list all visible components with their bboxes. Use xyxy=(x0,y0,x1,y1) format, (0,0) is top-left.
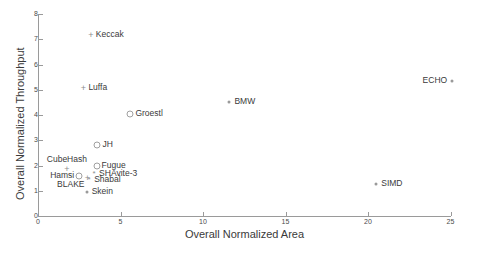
y-tick-1 xyxy=(39,191,43,192)
point-label-groestl: Groestl xyxy=(135,109,162,118)
scatter-plot: 0510152025 012345678 +Keccak+LuffaECHOBM… xyxy=(0,0,479,253)
x-tick-15 xyxy=(286,212,287,216)
y-tick-label-2: 2 xyxy=(29,162,38,170)
point-label-simd: SIMD xyxy=(381,179,402,188)
y-tick-7 xyxy=(39,39,43,40)
y-tick-label-1: 1 xyxy=(29,187,38,195)
point-label-shabal: Shabal xyxy=(94,175,120,184)
circle-marker-icon xyxy=(94,142,101,149)
y-tick-2 xyxy=(39,166,43,167)
y-tick-label-6: 6 xyxy=(29,61,38,69)
point-label-blake: BLAKE xyxy=(57,180,84,189)
point-label-jh: JH xyxy=(102,140,112,149)
x-tick-label-25: 25 xyxy=(447,218,455,226)
chart-screenshot: 0510152025 012345678 +Keccak+LuffaECHOBM… xyxy=(0,0,479,253)
x-tick-label-15: 15 xyxy=(282,218,290,226)
x-tick-label-20: 20 xyxy=(364,218,372,226)
y-tick-8 xyxy=(39,14,43,15)
point-label-skein: Skein xyxy=(92,187,113,196)
x-tick-label-5: 5 xyxy=(119,218,123,226)
point-label-keccak: Keccak xyxy=(96,30,124,39)
y-tick-label-0: 0 xyxy=(29,212,38,220)
y-tick-label-8: 8 xyxy=(29,10,38,18)
dot-marker-icon xyxy=(228,101,231,104)
x-axis-line xyxy=(38,216,451,217)
circle-marker-icon xyxy=(76,172,83,179)
y-tick-label-3: 3 xyxy=(29,136,38,144)
x-tick-20 xyxy=(368,212,369,216)
point-label-bmw: BMW xyxy=(234,97,255,106)
y-tick-label-4: 4 xyxy=(29,111,38,119)
x-tick-25 xyxy=(451,212,452,216)
y-tick-3 xyxy=(39,140,43,141)
star-marker-icon: * xyxy=(88,176,91,184)
circle-marker-icon xyxy=(127,110,134,117)
plus-marker-icon: + xyxy=(81,84,86,93)
y-tick-5 xyxy=(39,90,43,91)
x-tick-10 xyxy=(203,212,204,216)
y-tick-label-7: 7 xyxy=(29,35,38,43)
dot-marker-icon xyxy=(85,191,88,194)
point-label-cubehash: CubeHash xyxy=(47,155,87,164)
y-tick-4 xyxy=(39,115,43,116)
point-label-echo: ECHO xyxy=(423,76,448,85)
plus-marker-icon: + xyxy=(88,31,93,40)
y-tick-0 xyxy=(39,216,43,217)
y-tick-6 xyxy=(39,65,43,66)
x-tick-5 xyxy=(121,212,122,216)
point-label-luffa: Luffa xyxy=(88,83,107,92)
y-axis-label: Overall Normalized Throughput xyxy=(14,47,26,200)
dot-marker-icon xyxy=(451,79,454,82)
dot-marker-icon xyxy=(375,183,378,186)
x-axis-label: Overall Normalized Area xyxy=(38,228,451,240)
y-tick-label-5: 5 xyxy=(29,86,38,94)
x-tick-label-10: 10 xyxy=(199,218,207,226)
